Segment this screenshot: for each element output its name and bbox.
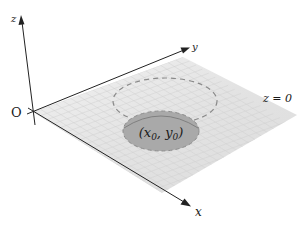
diagram-canvas: (x0, y0) z y x O z = 0 — [0, 0, 304, 231]
plane-label: z = 0 — [262, 92, 292, 105]
z-axis — [22, 22, 35, 125]
disk-region: (x0, y0) — [123, 111, 199, 151]
z-arrow-icon — [19, 15, 25, 25]
x-axis-label: x — [195, 205, 202, 219]
x-arrow-icon — [181, 199, 192, 207]
origin-label: O — [11, 105, 22, 120]
z-axis-label: z — [10, 13, 17, 24]
y-arrow-icon — [181, 48, 191, 54]
y-axis-label: y — [191, 41, 198, 52]
